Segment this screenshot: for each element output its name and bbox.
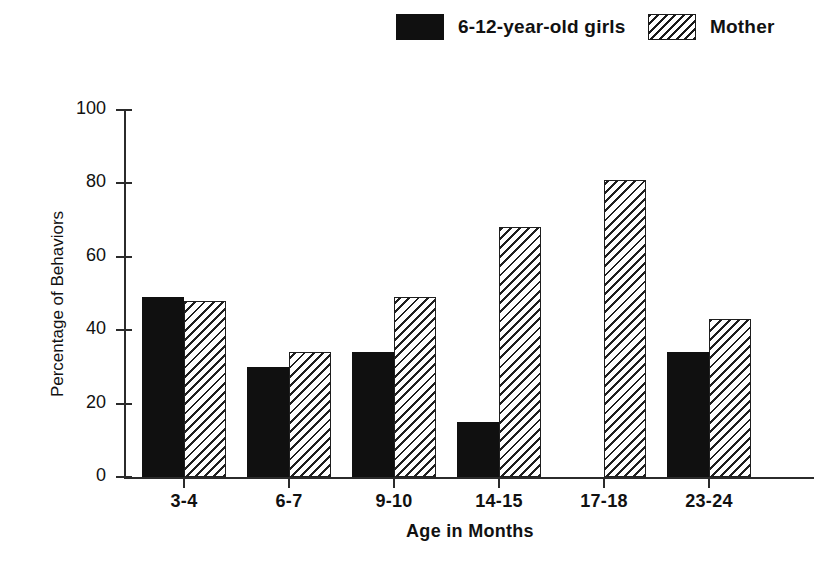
bar-23-24-girls [667, 352, 709, 477]
x-axis-tick [183, 478, 185, 488]
x-axis-tick [603, 478, 605, 488]
bar-6-7-girls [247, 367, 289, 477]
y-axis-tick [116, 109, 132, 111]
y-axis-tick-label: 100 [46, 98, 106, 119]
bar-14-15-girls [457, 422, 499, 477]
x-axis-line [124, 477, 814, 479]
bar-23-24-mother [709, 319, 751, 477]
y-axis-tick-label: 60 [46, 245, 106, 266]
bar-6-7-mother [289, 352, 331, 477]
x-axis-tick-label: 17-18 [544, 491, 664, 512]
x-axis-tick [393, 478, 395, 488]
bar-3-4-girls [142, 297, 184, 477]
y-axis-tick [116, 182, 132, 184]
x-axis-tick [288, 478, 290, 488]
bar-17-18-mother [604, 180, 646, 477]
x-axis-tick-label: 14-15 [439, 491, 559, 512]
y-axis-tick [116, 403, 132, 405]
x-axis-tick-label: 3-4 [124, 491, 244, 512]
x-axis-tick [498, 478, 500, 488]
y-axis-tick-label: 80 [46, 171, 106, 192]
bar-chart-plot-area: Percentage of Behaviors Age in Months 02… [0, 0, 832, 572]
x-axis-tick-label: 23-24 [649, 491, 769, 512]
y-axis-tick-label: 0 [46, 465, 106, 486]
y-axis-tick [116, 329, 132, 331]
y-axis-tick-label: 20 [46, 392, 106, 413]
y-axis-line [124, 110, 126, 478]
y-axis-tick [116, 476, 132, 478]
bar-3-4-mother [184, 301, 226, 477]
y-axis-tick-label: 40 [46, 318, 106, 339]
x-axis-tick [708, 478, 710, 488]
y-axis-tick [116, 256, 132, 258]
bar-9-10-girls [352, 352, 394, 477]
bar-9-10-mother [394, 297, 436, 477]
bar-14-15-mother [499, 227, 541, 477]
x-axis-tick-label: 9-10 [334, 491, 454, 512]
x-axis-title: Age in Months [120, 521, 820, 542]
x-axis-tick-label: 6-7 [229, 491, 349, 512]
